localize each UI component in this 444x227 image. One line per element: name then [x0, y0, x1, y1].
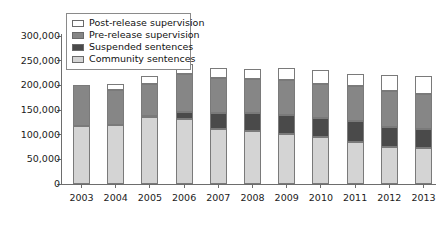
- x-tick-label: 2008: [235, 193, 271, 203]
- bar-segment: [347, 142, 364, 184]
- bar-2012: [381, 75, 398, 184]
- x-tick-mark: [252, 184, 253, 188]
- bar-segment: [347, 74, 364, 86]
- x-tick-mark: [423, 184, 424, 188]
- y-tick-label: 150,000: [21, 105, 60, 114]
- bar-segment: [312, 137, 329, 184]
- legend-label: Pre-release supervision: [89, 30, 200, 40]
- bar-segment: [278, 115, 295, 133]
- bar-segment: [107, 90, 124, 126]
- y-tick-label: 200,000: [21, 80, 60, 89]
- x-tick-label: 2003: [64, 193, 100, 203]
- legend-label: Post-release supervision: [89, 18, 204, 28]
- x-tick-mark: [320, 184, 321, 188]
- bar-2003: [73, 85, 90, 184]
- legend-swatch-icon: [72, 20, 84, 27]
- bar-segment: [381, 127, 398, 147]
- bar-segment: [415, 76, 432, 94]
- x-tick-mark: [184, 184, 185, 188]
- legend-swatch-icon: [72, 32, 84, 39]
- x-tick-label: 2011: [337, 193, 373, 203]
- y-tick-label: 300,000: [21, 31, 60, 40]
- x-tick-label: 2013: [406, 193, 442, 203]
- y-tick-label: 0: [54, 179, 60, 188]
- bar-segment: [176, 74, 193, 112]
- bar-segment: [347, 86, 364, 121]
- bar-segment: [415, 94, 432, 129]
- bar-segment: [210, 113, 227, 128]
- bar-segment: [176, 119, 193, 184]
- bar-segment: [278, 68, 295, 80]
- bar-segment: [381, 75, 398, 91]
- bar-segment: [141, 76, 158, 84]
- x-tick-label: 2010: [303, 193, 339, 203]
- x-tick-label: 2006: [166, 193, 202, 203]
- bar-segment: [73, 85, 90, 125]
- bar-segment: [244, 131, 261, 184]
- bar-segment: [312, 70, 329, 85]
- x-tick-label: 2012: [371, 193, 407, 203]
- legend-item: Post-release supervision: [72, 17, 185, 29]
- x-tick-mark: [286, 184, 287, 188]
- bar-segment: [415, 148, 432, 184]
- chart-legend: Post-release supervisionPre-release supe…: [66, 13, 191, 70]
- x-tick-label: 2005: [132, 193, 168, 203]
- x-tick-label: 2007: [200, 193, 236, 203]
- bar-segment: [176, 112, 193, 119]
- bar-2004: [107, 84, 124, 184]
- bar-2010: [312, 70, 329, 184]
- bar-segment: [278, 134, 295, 184]
- bar-segment: [312, 118, 329, 137]
- x-tick-mark: [149, 184, 150, 188]
- bar-2008: [244, 69, 261, 184]
- x-tick-mark: [355, 184, 356, 188]
- legend-label: Suspended sentences: [89, 42, 193, 52]
- x-tick-label: 2004: [98, 193, 134, 203]
- bar-segment: [381, 147, 398, 184]
- bar-segment: [244, 69, 261, 79]
- x-axis-line: [61, 184, 436, 185]
- x-tick-mark: [389, 184, 390, 188]
- bar-segment: [312, 84, 329, 118]
- bar-segment: [415, 129, 432, 148]
- bar-segment: [210, 68, 227, 78]
- legend-label: Community sentences: [89, 54, 195, 64]
- bar-segment: [381, 91, 398, 127]
- bar-segment: [141, 117, 158, 184]
- y-tick-label: 100,000: [21, 130, 60, 139]
- bar-segment: [107, 84, 124, 90]
- legend-swatch-icon: [72, 44, 84, 51]
- y-tick-label: 50,000: [27, 154, 60, 163]
- bar-2011: [347, 74, 364, 184]
- y-axis-line: [61, 34, 62, 185]
- bar-segment: [244, 79, 261, 114]
- bar-segment: [244, 113, 261, 130]
- bar-segment: [210, 129, 227, 184]
- bar-segment: [73, 126, 90, 184]
- x-tick-mark: [81, 184, 82, 188]
- bar-2009: [278, 68, 295, 184]
- bar-segment: [107, 125, 124, 184]
- legend-swatch-icon: [72, 56, 84, 63]
- stacked-bar-chart: 050,000100,000150,000200,000250,000300,0…: [0, 0, 444, 227]
- legend-item: Pre-release supervision: [72, 29, 185, 41]
- bar-segment: [141, 84, 158, 116]
- y-tick-label: 250,000: [21, 56, 60, 65]
- x-tick-mark: [218, 184, 219, 188]
- legend-item: Community sentences: [72, 53, 185, 65]
- bar-segment: [210, 78, 227, 114]
- bar-segment: [347, 121, 364, 141]
- legend-item: Suspended sentences: [72, 41, 185, 53]
- bar-2006: [176, 64, 193, 184]
- bar-segment: [278, 80, 295, 116]
- bar-2013: [415, 76, 432, 184]
- bar-2007: [210, 68, 227, 184]
- x-tick-mark: [115, 184, 116, 188]
- bar-2005: [141, 76, 158, 184]
- x-tick-label: 2009: [269, 193, 305, 203]
